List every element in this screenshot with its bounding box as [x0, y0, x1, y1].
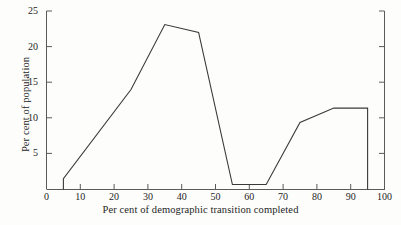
- x-tick-label-70: 70: [270, 191, 296, 202]
- x-tick-label-80: 80: [304, 191, 330, 202]
- y-axis-ticks: [47, 11, 53, 153]
- x-axis-ticks: [80, 184, 350, 190]
- y-tick-label-25: 25: [12, 5, 38, 16]
- x-tick-label-0: 0: [34, 191, 60, 202]
- x-tick-label-90: 90: [338, 191, 364, 202]
- x-tick-label-60: 60: [236, 191, 262, 202]
- secondary-y-axis-ticks: [379, 11, 385, 153]
- x-tick-label-40: 40: [169, 191, 195, 202]
- x-axis-title: Per cent of demographic transition compl…: [0, 204, 401, 215]
- y-axis-title: Per cent of population: [20, 25, 31, 185]
- x-tick-label-20: 20: [101, 191, 127, 202]
- x-tick-label-30: 30: [135, 191, 161, 202]
- x-tick-label-10: 10: [67, 191, 93, 202]
- data-series-line: [63, 25, 367, 190]
- x-tick-label-100: 100: [372, 191, 398, 202]
- chart-figure: 25 20 15 10 5 0 10 20 30 40 50 60 70 80 …: [0, 0, 401, 225]
- x-tick-label-50: 50: [203, 191, 229, 202]
